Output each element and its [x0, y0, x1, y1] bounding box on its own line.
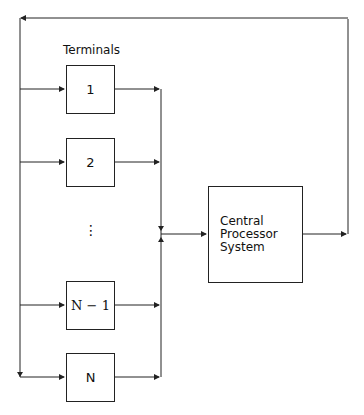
terminals-label: Terminals: [63, 43, 120, 57]
terminal-1-box: 1: [66, 65, 115, 114]
terminal-2-box: 2: [66, 138, 115, 187]
terminal-n-box: N: [66, 353, 115, 402]
processor-line-3: System: [220, 241, 278, 254]
ellipsis-vertical: ⋮: [84, 222, 98, 238]
central-processor-box: Central Processor System: [208, 186, 303, 283]
terminal-n-minus-1-box: N − 1: [66, 281, 115, 330]
connector-lines: [0, 0, 364, 415]
